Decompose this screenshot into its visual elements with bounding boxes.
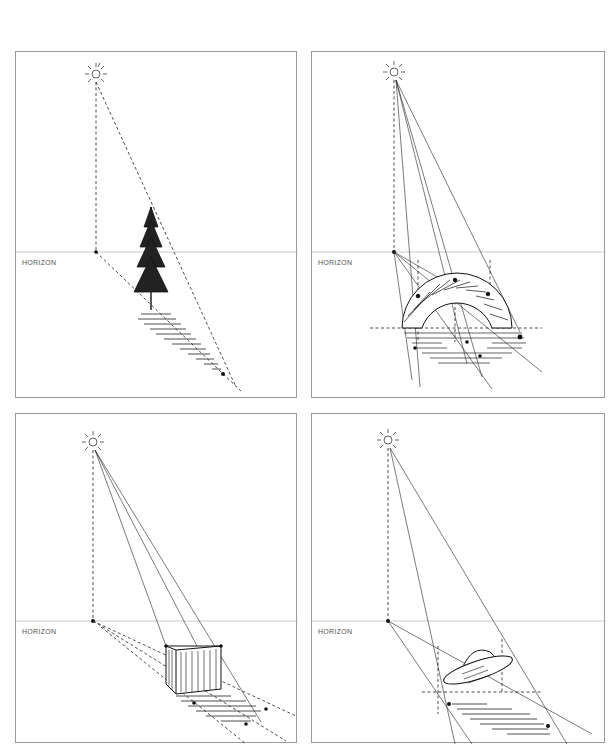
sun-icon — [85, 63, 107, 82]
box-shadow-diagram — [16, 414, 298, 744]
horizon-label: HORIZON — [22, 628, 56, 635]
light-construction-lines — [96, 82, 242, 392]
panel-tree-shadow: HORIZON — [15, 51, 297, 398]
arch-shadow-diagram — [312, 52, 606, 399]
box-icon — [166, 646, 221, 694]
panel-saucer-shadow: HORIZON — [311, 413, 605, 743]
horizon-label: HORIZON — [22, 259, 56, 266]
tree-shadow-hatching — [138, 314, 221, 369]
light-rays — [388, 448, 592, 744]
panel-box-shadow: HORIZON — [15, 413, 297, 743]
saucer-shadow-hatching — [452, 704, 550, 734]
tree-shadow-diagram — [16, 52, 298, 399]
sun-icon — [383, 61, 405, 80]
sun-icon — [377, 429, 399, 448]
saucer-shadow-diagram — [312, 414, 606, 744]
flying-saucer-icon — [441, 650, 515, 690]
horizon-label: HORIZON — [318, 628, 352, 635]
arch-shadow-hatching — [404, 333, 526, 363]
panel-arch-shadow: HORIZON — [311, 51, 605, 398]
horizon-label: HORIZON — [318, 259, 352, 266]
arch-icon — [402, 273, 512, 328]
sun-icon — [82, 431, 104, 450]
tree-icon — [134, 207, 168, 310]
